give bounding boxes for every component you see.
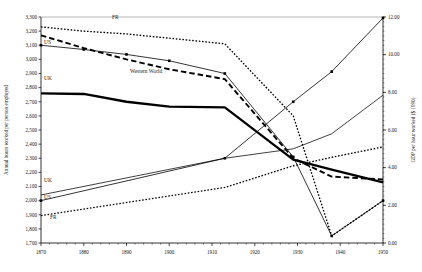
y-axis-tick-label: 3,000 <box>26 56 38 62</box>
x-axis-tick-label: 1880 <box>79 249 90 255</box>
y-axis-tick-label: 1,700 <box>26 240 38 246</box>
x-axis-tick-label: 1890 <box>121 249 132 255</box>
x-axis-tick-label: 1920 <box>250 249 261 255</box>
series-marker <box>40 199 43 202</box>
x-axis-tick-label: 1930 <box>292 249 303 255</box>
y2-axis-title: GDP per hour worked ($ 1990) <box>410 97 417 162</box>
y-axis-tick-label: 2,900 <box>26 70 38 76</box>
uk-gdp-label: UK <box>44 177 52 183</box>
y2-axis-tick-label: 4.00 <box>388 164 397 170</box>
y-axis-tick-label: 2,000 <box>26 197 38 203</box>
y2-axis-tick-label: 2.00 <box>388 202 397 208</box>
fr-gdp-label: FR <box>50 214 57 220</box>
series-marker <box>168 59 171 62</box>
hours-and-gdp-line-chart: 1,7001,8001,9002,0002,1002,2002,3002,400… <box>0 0 422 272</box>
series-marker <box>330 235 333 238</box>
series-marker <box>382 17 385 20</box>
series-marker <box>40 44 43 47</box>
y-axis-tick-label: 1,800 <box>26 226 38 232</box>
y-axis-tick-label: 3,100 <box>26 42 38 48</box>
fr-hours-label: FR <box>112 14 119 20</box>
us-hours-label: US <box>44 39 51 45</box>
chart-container: 1,7001,8001,9002,0002,1002,2002,3002,400… <box>0 0 422 272</box>
y-axis-title: Annual hours worked per person employed <box>3 85 9 175</box>
y-axis-tick-label: 1,900 <box>26 212 38 218</box>
series-marker <box>224 157 227 160</box>
x-axis-tick-label: 1910 <box>207 249 218 255</box>
series-marker <box>125 53 128 56</box>
y2-axis-tick-label: 12.00 <box>388 14 400 20</box>
y2-axis-tick-label: 6.00 <box>388 127 397 133</box>
y-axis-tick-label: 3,200 <box>26 28 38 34</box>
y-axis-tick-label: 2,600 <box>26 113 38 119</box>
y-axis-tick-label: 2,400 <box>26 141 38 147</box>
x-axis-tick-label: 1870 <box>36 249 47 255</box>
series-marker <box>382 199 385 202</box>
y-axis-tick-label: 2,100 <box>26 183 38 189</box>
x-axis-tick-label: 1940 <box>335 249 346 255</box>
series-marker <box>330 70 333 73</box>
x-axis-tick-label: 1900 <box>164 249 175 255</box>
y-axis-tick-label: 2,500 <box>26 127 38 133</box>
y2-axis-tick-label: 8.00 <box>388 89 397 95</box>
series-marker <box>224 72 227 75</box>
us-gdp-label: US <box>44 194 51 200</box>
y2-axis-tick-label: 0.00 <box>388 240 397 246</box>
y2-axis-tick-label: 10.00 <box>388 51 400 57</box>
y-axis-tick-label: 3,300 <box>26 14 38 20</box>
y-axis-tick-label: 2,300 <box>26 155 38 161</box>
x-axis-tick-label: 1950 <box>378 249 389 255</box>
y-axis-tick-label: 2,700 <box>26 99 38 105</box>
uk-hours-label: UK <box>44 75 52 81</box>
y-axis-tick-label: 2,200 <box>26 169 38 175</box>
chart-background <box>0 0 422 272</box>
y-axis-tick-label: 2,800 <box>26 84 38 90</box>
western-world-label: Western World <box>130 68 162 74</box>
series-marker <box>292 100 295 103</box>
